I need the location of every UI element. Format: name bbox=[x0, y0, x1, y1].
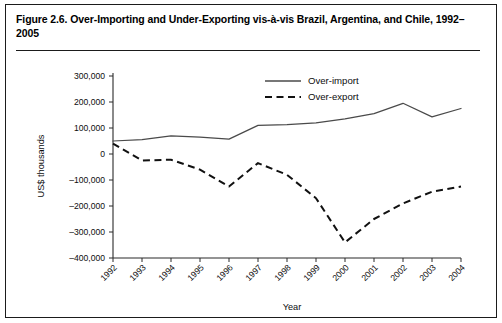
x-tick-label: 1999 bbox=[301, 262, 322, 283]
x-tick-label: 1992 bbox=[98, 262, 119, 283]
x-tick-label: 1994 bbox=[156, 262, 177, 283]
x-tick-label: 2004 bbox=[446, 262, 467, 283]
legend-label-over-export: Over-export bbox=[308, 91, 359, 102]
chart-legend: Over-importOver-export bbox=[265, 75, 359, 102]
y-tick-label: –100,000 bbox=[69, 175, 105, 185]
y-tick-label: –300,000 bbox=[69, 227, 105, 237]
series-line-over-export bbox=[113, 144, 461, 243]
y-tick-label: 0 bbox=[100, 149, 105, 159]
chart-axes bbox=[113, 73, 461, 258]
chart-series-layer bbox=[113, 103, 461, 242]
y-tick-label: –400,000 bbox=[69, 253, 105, 263]
x-tick-label: 2001 bbox=[359, 262, 380, 283]
x-tick-label: 1993 bbox=[127, 262, 148, 283]
x-tick-label: 2000 bbox=[330, 262, 351, 283]
series-line-over-import bbox=[113, 103, 461, 141]
line-chart-svg: 300,000200,000100,0000–100,000–200,000–3… bbox=[0, 0, 502, 323]
x-tick-label: 1995 bbox=[185, 262, 206, 283]
x-tick-label: 1998 bbox=[272, 262, 293, 283]
figure-container: Figure 2.6. Over-Importing and Under-Exp… bbox=[0, 0, 502, 323]
y-tick-label: 300,000 bbox=[74, 71, 105, 81]
y-axis-ticks: 300,000200,000100,0000–100,000–200,000–3… bbox=[69, 71, 113, 263]
y-tick-label: 200,000 bbox=[74, 97, 105, 107]
y-tick-label: 100,000 bbox=[74, 123, 105, 133]
x-tick-label: 2002 bbox=[388, 262, 409, 283]
y-axis-title: US$ thousands bbox=[36, 134, 46, 197]
chart-plot-area: 300,000200,000100,0000–100,000–200,000–3… bbox=[0, 0, 502, 323]
x-tick-label: 2003 bbox=[417, 262, 438, 283]
x-axis-title: Year bbox=[283, 302, 302, 312]
x-tick-label: 1996 bbox=[214, 262, 235, 283]
legend-label-over-import: Over-import bbox=[308, 75, 359, 86]
x-tick-label: 1997 bbox=[243, 262, 264, 283]
y-tick-label: –200,000 bbox=[69, 201, 105, 211]
x-axis-ticks: 1992199319941995199619971998199920002001… bbox=[98, 258, 467, 283]
